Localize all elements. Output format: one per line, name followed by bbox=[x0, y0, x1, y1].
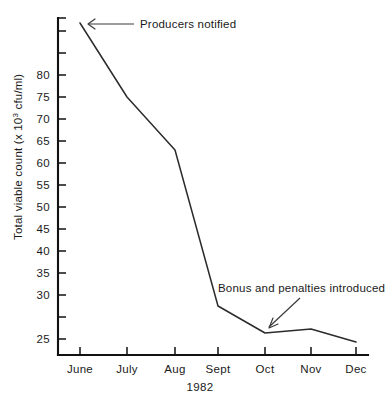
svg-text:Total viable count (x 103 cfu/: Total viable count (x 103 cfu/ml) bbox=[11, 74, 24, 240]
y-axis-title: Total viable count (x 103 cfu/ml) bbox=[11, 74, 24, 240]
y-tick-label-65: 65 bbox=[37, 135, 50, 147]
x-tick-label-aug: Aug bbox=[164, 363, 185, 375]
x-tick-label-nov: Nov bbox=[300, 363, 321, 375]
y-axis-title-prefix: Total viable count (x 10 bbox=[12, 118, 24, 240]
x-tick-label-june: June bbox=[67, 363, 93, 375]
y-ticks-unlabeled bbox=[58, 31, 66, 53]
data-series-line bbox=[80, 23, 356, 342]
y-axis-title-suffix: cfu/ml) bbox=[12, 74, 24, 113]
y-tick-label-55: 55 bbox=[37, 179, 50, 191]
y-tick-label-25: 25 bbox=[37, 333, 50, 345]
annotation-producers-notified: Producers notified bbox=[88, 18, 236, 30]
y-tick-label-80: 80 bbox=[37, 69, 50, 81]
annotation-producers-notified-label: Producers notified bbox=[140, 18, 236, 30]
x-ticks bbox=[80, 347, 356, 355]
y-tick-label-60: 60 bbox=[37, 157, 50, 169]
y-tick-label-35: 35 bbox=[37, 267, 50, 279]
y-ticks-labeled bbox=[58, 75, 66, 339]
y-tick-label-50: 50 bbox=[37, 201, 50, 213]
annotation-bonus-penalties-label: Bonus and penalties introduced bbox=[218, 282, 385, 294]
line-chart: 80 75 70 65 60 55 50 45 40 35 30 25 Tota… bbox=[0, 0, 388, 400]
y-tick-label-45: 45 bbox=[37, 223, 50, 235]
x-axis-title: 1982 bbox=[187, 381, 214, 393]
y-tick-label-75: 75 bbox=[37, 91, 50, 103]
x-tick-label-dec: Dec bbox=[345, 363, 366, 375]
y-tick-label-70: 70 bbox=[37, 113, 50, 125]
x-tick-label-july: July bbox=[116, 363, 138, 375]
chart-container: 80 75 70 65 60 55 50 45 40 35 30 25 Tota… bbox=[0, 0, 388, 400]
x-tick-label-oct: Oct bbox=[256, 363, 275, 375]
y-tick-label-40: 40 bbox=[37, 245, 50, 257]
y-tick-label-30: 30 bbox=[37, 289, 50, 301]
x-tick-label-sept: Sept bbox=[206, 363, 231, 375]
